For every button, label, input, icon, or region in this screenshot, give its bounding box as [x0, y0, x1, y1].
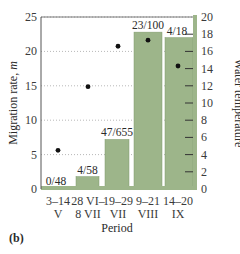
- temperature-dot: [146, 38, 151, 43]
- y2-tick-label: 10: [201, 96, 213, 110]
- bar-label: 47/655: [101, 126, 133, 138]
- bar-label: 0/48: [46, 175, 67, 187]
- temperature-dot: [116, 44, 121, 49]
- x-tick-label: 9–21: [136, 194, 160, 208]
- bar: [134, 32, 162, 189]
- x-tick-label: VII: [110, 207, 127, 221]
- right-axis: [193, 15, 197, 190]
- y-axis-label: Migration rate, m: [6, 61, 20, 145]
- bar-label: 4/58: [77, 164, 98, 176]
- x-tick-label: IX: [172, 207, 185, 221]
- migration-chart: 0/484/5847/65523/1004/180510152025024681…: [0, 0, 240, 254]
- temperature-dot: [176, 64, 181, 69]
- bar-label: 4/18: [167, 25, 188, 37]
- x-tick-label: VIII: [138, 207, 159, 221]
- y2-tick-label: 12: [201, 79, 213, 93]
- panel-label: (b): [9, 231, 24, 246]
- y2-tick-label: 18: [201, 27, 213, 41]
- y2-tick-label: 14: [201, 62, 213, 76]
- y-tick-label: 25: [25, 10, 37, 24]
- y-tick-label: 20: [25, 44, 37, 58]
- y2-tick-label: 6: [201, 130, 207, 144]
- x-tick-label: 19–29: [103, 194, 133, 208]
- y2-tick-label: 4: [201, 148, 207, 162]
- x-tick-label: 3–14: [46, 194, 70, 208]
- x-tick-label: 14–20: [163, 194, 193, 208]
- y-tick-label: 5: [31, 148, 37, 162]
- y2-tick-label: 8: [201, 113, 207, 127]
- y2-tick-label: 0: [201, 182, 207, 196]
- y-tick-label: 10: [25, 113, 37, 127]
- x-tick-label: 28 VI–: [71, 194, 105, 208]
- x-axis-label: Period: [101, 221, 132, 235]
- y2-tick-label: 16: [201, 44, 213, 58]
- bar: [165, 38, 193, 189]
- y2-tick-label: 2: [201, 165, 207, 179]
- x-tick-label: V: [54, 207, 63, 221]
- temperature-dot: [56, 148, 61, 153]
- y2-tick-label: 20: [201, 10, 213, 24]
- y2-axis-label: Water temperature: [232, 59, 240, 148]
- bar: [105, 139, 129, 189]
- temperature-dot: [86, 84, 91, 89]
- y-tick-label: 15: [25, 79, 37, 93]
- bar-label: 23/100: [132, 19, 164, 31]
- y-tick-label: 0: [31, 182, 37, 196]
- x-tick-label: 8 VII: [75, 207, 100, 221]
- x-axis-baseline: [41, 186, 197, 190]
